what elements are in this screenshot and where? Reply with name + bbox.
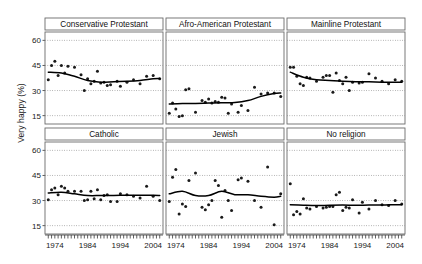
data-point xyxy=(279,95,282,98)
data-point xyxy=(240,176,243,179)
data-point xyxy=(328,74,331,77)
data-point xyxy=(53,187,56,190)
panel-catholic: Catholic1974198419942004 xyxy=(45,128,163,250)
data-point xyxy=(260,92,263,95)
data-point xyxy=(109,83,112,86)
data-point xyxy=(73,190,76,193)
data-point xyxy=(93,197,96,200)
data-point xyxy=(210,199,213,202)
data-point xyxy=(139,82,142,85)
y-tick-label: 15 xyxy=(32,222,41,231)
data-point xyxy=(341,82,344,85)
data-point xyxy=(367,72,370,75)
panel-mainline-protestant: Mainline Protestant xyxy=(287,18,405,124)
data-point xyxy=(86,198,89,201)
data-point xyxy=(253,86,256,89)
panel-jewish: Jewish1974198419942004 xyxy=(166,128,284,250)
panel-conservative-protestant: Conservative Protestant xyxy=(45,18,163,124)
data-point xyxy=(345,206,348,209)
data-point xyxy=(246,180,249,183)
data-point xyxy=(361,201,364,204)
x-tick-label: 1994 xyxy=(111,241,129,250)
x-tick-label: 2004 xyxy=(265,241,283,250)
data-point xyxy=(181,114,184,117)
data-point xyxy=(80,73,83,76)
data-point xyxy=(374,77,377,80)
panel-title: Jewish xyxy=(212,130,237,139)
data-point xyxy=(184,205,187,208)
data-point xyxy=(367,207,370,210)
data-point xyxy=(308,207,311,210)
x-tick-label: 1974 xyxy=(167,241,185,250)
x-tick-label: 2004 xyxy=(144,241,162,250)
data-point xyxy=(207,203,210,206)
data-point xyxy=(63,187,66,190)
y-tick-label: 30 xyxy=(32,197,41,206)
data-point xyxy=(73,66,76,69)
data-point xyxy=(119,85,122,88)
data-point xyxy=(230,209,233,212)
data-point xyxy=(116,200,119,203)
data-point xyxy=(174,168,177,171)
y-tick-label: 60 xyxy=(32,36,41,45)
data-point xyxy=(289,66,292,69)
data-point xyxy=(348,89,351,92)
x-tick-label: 1984 xyxy=(200,241,218,250)
data-point xyxy=(99,198,102,201)
data-point xyxy=(181,202,184,205)
x-tick-label: 1974 xyxy=(46,241,64,250)
data-point xyxy=(345,76,348,79)
data-point xyxy=(266,166,269,169)
data-point xyxy=(47,198,50,201)
data-point xyxy=(246,109,249,112)
data-point xyxy=(322,207,325,210)
data-point xyxy=(394,78,397,81)
data-point xyxy=(178,115,181,118)
data-point xyxy=(178,212,181,215)
data-point xyxy=(341,209,344,212)
data-point xyxy=(171,176,174,179)
smoothing-curve xyxy=(290,205,401,206)
data-point xyxy=(273,223,276,226)
panel-frame xyxy=(45,142,163,234)
data-point xyxy=(204,208,207,211)
x-tick-label: 1984 xyxy=(321,241,339,250)
data-point xyxy=(331,91,334,94)
panel-title: Conservative Protestant xyxy=(60,20,148,29)
trellis-figure: Very happy (%) 6060454530301515Conservat… xyxy=(0,0,422,264)
data-point xyxy=(207,97,210,100)
data-point xyxy=(335,193,338,196)
x-tick-label: 1994 xyxy=(353,241,371,250)
panel-title: No religion xyxy=(326,130,366,139)
data-point xyxy=(194,171,197,174)
data-point xyxy=(237,111,240,114)
data-point xyxy=(299,212,302,215)
data-point xyxy=(295,210,298,213)
data-point xyxy=(145,75,148,78)
data-point xyxy=(80,190,83,193)
data-point xyxy=(53,60,56,63)
data-point xyxy=(292,66,295,69)
data-point xyxy=(348,207,351,210)
panel-frame xyxy=(166,32,284,124)
data-point xyxy=(184,88,187,91)
data-point xyxy=(227,199,230,202)
data-point xyxy=(305,207,308,210)
data-point xyxy=(89,82,92,85)
data-point xyxy=(158,199,161,202)
data-point xyxy=(338,191,341,194)
data-point xyxy=(96,70,99,73)
data-point xyxy=(57,74,60,77)
data-point xyxy=(322,76,325,79)
x-tick-label: 1974 xyxy=(288,241,306,250)
data-point xyxy=(50,64,53,67)
data-point xyxy=(227,112,230,115)
data-point xyxy=(292,213,295,216)
data-point xyxy=(187,179,190,182)
panel-title: Catholic xyxy=(89,130,119,139)
data-point xyxy=(302,84,305,87)
data-point xyxy=(253,199,256,202)
data-point xyxy=(96,188,99,191)
data-point xyxy=(109,200,112,203)
data-point xyxy=(83,89,86,92)
